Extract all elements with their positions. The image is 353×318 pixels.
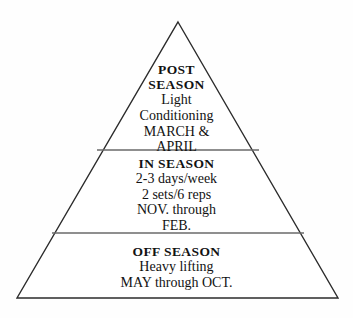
post-season-body-line-1: Light	[0, 92, 353, 108]
post-season-heading-line-2: SEASON	[0, 77, 353, 92]
pyramid-tier-in-season: IN SEASON 2-3 days/week 2 sets/6 reps NO…	[0, 156, 353, 234]
in-season-body-line-3: NOV. through	[0, 202, 353, 218]
in-season-heading-line-1: IN SEASON	[0, 156, 353, 171]
post-season-body-line-4: APRIL	[0, 139, 353, 155]
post-season-body-line-3: MARCH &	[0, 124, 353, 140]
in-season-body-line-4: FEB.	[0, 218, 353, 234]
in-season-body-line-2: 2 sets/6 reps	[0, 187, 353, 203]
pyramid-tier-off-season: OFF SEASON Heavy lifting MAY through OCT…	[0, 244, 353, 290]
off-season-heading-line-1: OFF SEASON	[0, 244, 353, 259]
pyramid-tier-post-season: POST SEASON Light Conditioning MARCH & A…	[0, 62, 353, 155]
in-season-body-line-1: 2-3 days/week	[0, 171, 353, 187]
off-season-body-line-2: MAY through OCT.	[0, 275, 353, 291]
post-season-heading-line-1: POST	[0, 62, 353, 77]
off-season-body-line-1: Heavy lifting	[0, 259, 353, 275]
post-season-body-line-2: Conditioning	[0, 108, 353, 124]
training-season-pyramid: POST SEASON Light Conditioning MARCH & A…	[0, 0, 353, 318]
